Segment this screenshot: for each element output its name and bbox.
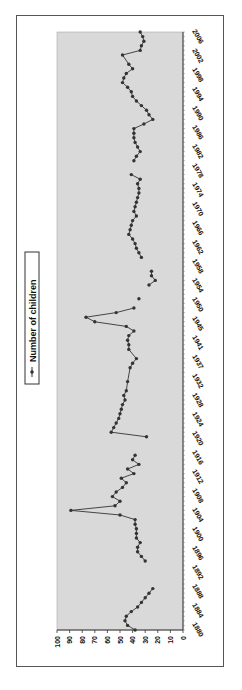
data-point-marker	[127, 348, 130, 351]
data-point-marker	[115, 421, 118, 424]
data-point-marker	[125, 615, 128, 618]
data-point-marker	[137, 251, 140, 254]
data-point-marker	[126, 86, 129, 89]
data-point-marker	[123, 398, 126, 401]
data-point-marker	[147, 113, 150, 116]
data-point-marker	[93, 320, 96, 323]
x-tick-label: 1974	[191, 181, 205, 198]
data-point-marker	[133, 628, 136, 631]
data-point-marker	[140, 601, 143, 604]
data-point-marker	[131, 95, 134, 98]
data-point-marker	[151, 587, 154, 590]
y-tick-label: 70	[91, 636, 98, 644]
data-point-marker	[136, 182, 139, 185]
x-tick-label: 1888	[191, 583, 205, 600]
data-point-marker	[132, 127, 135, 130]
x-tick-label: 1932	[191, 372, 205, 389]
data-point-marker	[125, 481, 128, 484]
data-point-marker	[139, 30, 142, 33]
data-point-marker	[125, 72, 128, 75]
data-point-marker	[140, 256, 143, 259]
y-tick-label: 60	[104, 636, 111, 644]
data-point-marker	[69, 509, 72, 512]
data-point-marker	[132, 472, 135, 475]
data-point-marker	[127, 233, 130, 236]
data-point-marker	[135, 536, 138, 539]
data-point-marker	[121, 53, 124, 56]
data-point-marker	[136, 605, 139, 608]
data-point-marker	[122, 76, 125, 79]
data-point-marker	[121, 403, 124, 406]
y-tick-label: 80	[79, 636, 86, 644]
x-tick-label: 1986	[191, 124, 205, 141]
y-tick-label: 40	[129, 636, 136, 644]
x-tick-label: 1998	[191, 66, 205, 83]
data-point-marker	[150, 270, 153, 273]
data-point-marker	[131, 237, 134, 240]
y-tick-label: 100	[54, 636, 61, 648]
y-tick-label: 0	[180, 636, 187, 640]
plot-area	[57, 32, 183, 630]
data-point-marker	[130, 90, 133, 93]
data-point-marker	[112, 426, 115, 429]
x-tick-label: 1880	[191, 621, 205, 638]
data-point-marker	[136, 196, 139, 199]
data-point-marker	[132, 136, 135, 139]
x-tick-label: 1928	[191, 391, 205, 408]
data-point-marker	[132, 329, 135, 332]
x-tick-label: 1896	[191, 544, 205, 561]
data-point-marker	[135, 214, 138, 217]
x-tick-label: 1990	[191, 105, 205, 122]
data-point-marker	[135, 527, 138, 530]
data-point-marker	[141, 35, 144, 38]
data-point-marker	[118, 412, 121, 415]
data-point-marker	[133, 518, 136, 521]
y-tick-label: 90	[66, 636, 73, 644]
data-point-marker	[130, 173, 133, 176]
data-point-marker	[128, 366, 131, 369]
data-point-marker	[127, 62, 130, 65]
data-point-marker	[137, 191, 140, 194]
data-point-marker	[117, 417, 120, 420]
data-point-marker	[144, 559, 147, 562]
data-point-marker	[137, 463, 140, 466]
data-point-marker	[140, 104, 143, 107]
line-chart: 1880188418881892189619001904190819121916…	[0, 0, 242, 690]
data-point-marker	[137, 297, 140, 300]
data-point-marker	[135, 99, 138, 102]
x-tick-label: 1908	[191, 487, 205, 504]
y-tick-label: 30	[142, 636, 149, 644]
data-point-marker	[115, 490, 118, 493]
data-point-marker	[139, 49, 142, 52]
data-point-marker	[130, 224, 133, 227]
x-tick-label: 1892	[191, 564, 205, 581]
data-point-marker	[84, 316, 87, 319]
data-point-marker	[126, 624, 129, 627]
y-tick-label: 10	[167, 636, 174, 644]
data-point-marker	[133, 454, 136, 457]
data-point-marker	[135, 201, 138, 204]
x-tick-label: 1912	[191, 468, 205, 485]
x-tick-label: 1924	[191, 411, 205, 428]
data-point-marker	[150, 274, 153, 277]
data-point-marker	[132, 306, 135, 309]
data-point-marker	[139, 178, 142, 181]
data-point-marker	[120, 477, 123, 480]
x-tick-label: 1904	[191, 506, 205, 523]
data-point-marker	[133, 242, 136, 245]
data-point-marker	[126, 339, 129, 342]
data-point-marker	[130, 610, 133, 613]
x-tick-label: 1941	[191, 334, 205, 351]
data-point-marker	[151, 118, 154, 121]
data-point-marker	[127, 343, 130, 346]
x-tick-label: 1920	[191, 430, 205, 447]
x-tick-label: 1900	[191, 525, 205, 542]
data-point-marker	[121, 81, 124, 84]
data-point-marker	[135, 247, 138, 250]
data-point-marker	[137, 187, 140, 190]
x-tick-label: 2006	[191, 28, 205, 45]
x-axis-ticks: 1880188418881892189619001904190819121916…	[183, 28, 205, 638]
data-point-marker	[118, 513, 121, 516]
data-point-marker	[132, 210, 135, 213]
data-point-marker	[131, 362, 134, 365]
